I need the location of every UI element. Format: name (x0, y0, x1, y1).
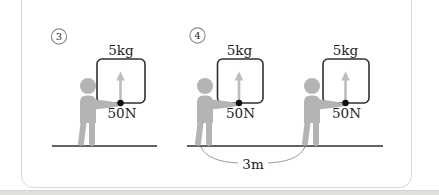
diagram-number-label: 3 (56, 31, 62, 42)
mass-label: 5kg (227, 42, 253, 58)
diagram-4-unit-left: 5kg 50N (195, 42, 263, 146)
force-label: 50N (108, 105, 137, 121)
distance-arc-left (201, 147, 238, 163)
force-label: 50N (226, 105, 255, 121)
mass-label: 5kg (333, 42, 359, 58)
physics-diagram: 3 5kg 50N 4 (0, 0, 439, 195)
force-label: 50N (332, 105, 361, 121)
diagram-4: 4 5kg 50N 5kg 50N (187, 28, 383, 172)
distance-annotation: 3m (201, 147, 305, 172)
figure-canvas: 3 5kg 50N 4 (0, 0, 439, 195)
distance-label: 3m (242, 156, 264, 172)
diagram-3: 3 5kg 50N (51, 29, 157, 146)
mass-label: 5kg (108, 42, 134, 58)
diagram-number-label: 4 (194, 30, 200, 41)
distance-arc-right (268, 147, 305, 163)
diagram-4-unit-right: 5kg 50N (302, 42, 369, 146)
circled-number-4: 4 (190, 28, 205, 43)
circled-number-3: 3 (51, 29, 66, 44)
